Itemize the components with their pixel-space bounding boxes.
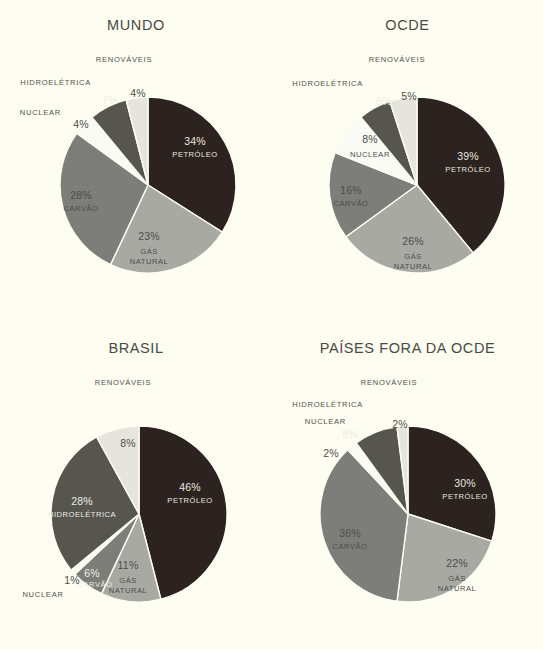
external-label-hidroeletrica: HIDROELÉTRICA	[292, 400, 363, 409]
label-gas-pct: 11%	[118, 559, 139, 571]
label-carvao-cat: CARVÃO	[64, 204, 99, 213]
label-hidroeletrica-pct: 8%	[342, 428, 358, 440]
label-hidroeletrica-cat: HIDROELÉTRICA	[48, 510, 117, 519]
external-label-renovaveis: RENOVÁVEIS	[96, 55, 152, 64]
label-gas-cat-1: GÁS	[140, 247, 158, 256]
label-gas-pct: 22%	[446, 557, 468, 569]
label-carvao-pct: 36%	[339, 527, 361, 539]
panel-mundo: MUNDO 34% PETRÓLEO 23% GÁS NATURAL	[0, 0, 272, 325]
label-gas-cat-1: GÁS	[448, 574, 466, 583]
panel-fora-ocde: PAÍSES FORA DA OCDE 30% PETRÓLEO 22% GÁS…	[272, 325, 543, 649]
external-label-renovaveis: RENOVÁVEIS	[95, 378, 151, 387]
label-petroleo-pct: 34%	[184, 135, 206, 147]
pie-chart-brasil: 46% PETRÓLEO 11% GÁS NATURAL 6% CARVÃO 1…	[0, 325, 272, 649]
label-gas-cat-1: GÁS	[119, 576, 137, 585]
pie-svg-fora-ocde: 30% PETRÓLEO 22% GÁS NATURAL 36% CARVÃO …	[272, 325, 543, 649]
label-petroleo-pct: 30%	[454, 477, 476, 489]
label-gas-pct: 26%	[402, 235, 424, 247]
label-petroleo-cat: PETRÓLEO	[167, 496, 212, 505]
pie-svg-brasil: 46% PETRÓLEO 11% GÁS NATURAL 6% CARVÃO 1…	[0, 325, 272, 649]
label-renovaveis-pct: 5%	[401, 90, 417, 102]
label-gas-cat-2: NATURAL	[109, 586, 147, 595]
label-gas-cat-2: NATURAL	[394, 262, 432, 271]
label-nuclear-pct: 2%	[323, 447, 339, 459]
label-renovaveis-pct: 2%	[392, 418, 408, 430]
pie-slices-fora-ocde	[320, 426, 496, 602]
pie-chart-grid: MUNDO 34% PETRÓLEO 23% GÁS NATURAL	[0, 0, 543, 649]
panel-brasil: BRASIL 46% PETRÓLEO 11% GÁS NATURAL	[0, 325, 272, 649]
panel-ocde: OCDE 39% PETRÓLEO 26% GÁS NATURAL	[272, 0, 543, 325]
external-label-renovaveis: RENOVÁVEIS	[369, 55, 425, 64]
label-gas-cat-1: GÁS	[404, 252, 422, 261]
external-label-nuclear: NUCLEAR	[305, 417, 346, 426]
label-carvao-pct: 28%	[70, 189, 92, 201]
pie-chart-mundo: 34% PETRÓLEO 23% GÁS NATURAL 28% CARVÃO …	[0, 0, 272, 325]
label-renovaveis-pct: 8%	[120, 437, 136, 449]
label-hidroeletrica-pct: 28%	[71, 495, 93, 507]
label-gas-pct: 23%	[138, 230, 160, 242]
pie-chart-fora-ocde: 30% PETRÓLEO 22% GÁS NATURAL 36% CARVÃO …	[272, 325, 543, 649]
pie-svg-ocde: 39% PETRÓLEO 26% GÁS NATURAL 16% CARVÃO …	[272, 0, 543, 325]
label-gas-cat-2: NATURAL	[130, 257, 168, 266]
label-gas-cat-2: NATURAL	[438, 584, 476, 593]
external-label-nuclear: NUCLEAR	[22, 590, 63, 599]
label-renovaveis-pct: 4%	[130, 87, 146, 99]
label-petroleo-pct: 39%	[457, 150, 479, 162]
external-label-renovaveis: RENOVÁVEIS	[361, 378, 417, 387]
label-carvao-cat: CARVÃO	[78, 580, 113, 589]
label-petroleo-cat: PETRÓLEO	[172, 150, 217, 159]
external-label-hidroeletrica: HIDROELÉTRICA	[292, 79, 363, 88]
label-carvao-cat: CARVÃO	[334, 199, 369, 208]
label-nuclear-pct: 4%	[73, 118, 89, 130]
label-carvao-pct: 6%	[84, 567, 100, 579]
pie-chart-ocde: 39% PETRÓLEO 26% GÁS NATURAL 16% CARVÃO …	[272, 0, 543, 325]
label-hidroeletrica-pct: 7%	[102, 94, 118, 106]
label-carvao-cat: CARVÃO	[333, 542, 368, 551]
label-petroleo-pct: 46%	[179, 481, 201, 493]
external-label-nuclear: NUCLEAR	[20, 108, 61, 117]
label-nuclear-pct: 1%	[64, 574, 80, 586]
pie-external-labels-ocde: RENOVÁVEIS HIDROELÉTRICA	[292, 55, 425, 88]
label-nuclear-cat: NUCLEAR	[350, 150, 390, 159]
external-label-hidroeletrica: HIDROELÉTRICA	[20, 78, 91, 87]
label-petroleo-cat: PETRÓLEO	[442, 492, 487, 501]
label-nuclear-pct: 8%	[362, 133, 378, 145]
pie-svg-mundo: 34% PETRÓLEO 23% GÁS NATURAL 28% CARVÃO …	[0, 0, 272, 325]
label-petroleo-cat: PETRÓLEO	[445, 165, 490, 174]
label-hidroeletrica-pct: 6%	[376, 95, 392, 107]
label-carvao-pct: 16%	[340, 184, 362, 196]
